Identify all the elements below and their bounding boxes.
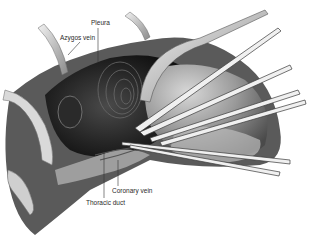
label-coronary-vein: Coronary vein [112,188,152,195]
azygos-vein-shape [58,96,82,128]
surgical-illustration [0,0,313,249]
label-azygos-vein: Azygos vein [60,35,95,42]
label-thoracic-duct: Thoracic duct [86,200,125,207]
rib-retractor-middle [125,12,150,40]
label-pleura: Pleura [91,20,110,27]
